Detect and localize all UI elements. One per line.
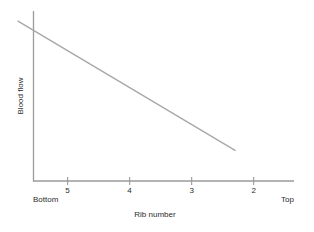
x-axis-right-annotation: Top (234, 195, 294, 205)
chart-figure: 5 4 3 2 Blood flow Rib number Bottom Top (0, 0, 314, 232)
y-axis-label: Blood flow (16, 41, 26, 151)
x-tick-label-4: 4 (120, 186, 140, 196)
x-axis-left-annotation: Bottom (33, 195, 58, 205)
x-tick-label-3: 3 (182, 186, 202, 196)
data-series-line (18, 21, 235, 150)
x-axis-label: Rib number (100, 210, 210, 220)
x-tick-label-5: 5 (58, 186, 78, 196)
